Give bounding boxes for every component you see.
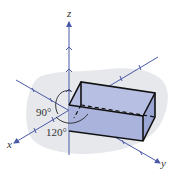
- coordinate-diagram: z x y 90° 120°: [0, 0, 179, 179]
- angle-label-90: 90°: [36, 106, 51, 118]
- rectangular-box: [69, 82, 155, 141]
- angle-label-120: 120°: [46, 126, 67, 138]
- z-axis-label: z: [66, 7, 72, 19]
- y-axis-label: y: [160, 157, 166, 169]
- x-axis-label: x: [6, 138, 12, 150]
